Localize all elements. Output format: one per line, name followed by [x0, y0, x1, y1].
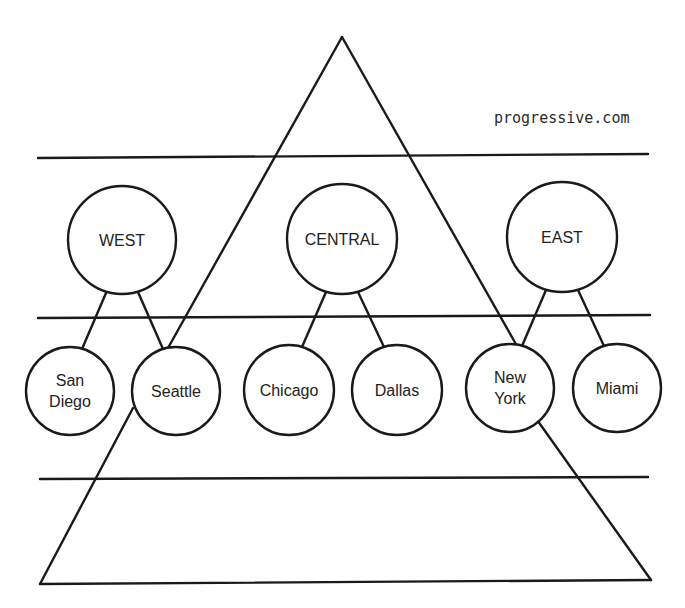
hierarchy-pyramid-diagram: WEST CENTRAL EAST San Diego Seattle Chic…	[0, 0, 685, 608]
pyramid-right-edge-lower	[530, 410, 651, 580]
pyramid-base	[40, 580, 651, 584]
node-central: CENTRAL	[287, 184, 397, 294]
node-label-chicago: Chicago	[260, 382, 319, 399]
connector-east-miami	[578, 290, 604, 346]
node-label-dallas: Dallas	[375, 382, 419, 399]
connector-central-dallas	[358, 292, 384, 347]
node-miami: Miami	[573, 344, 661, 432]
connector-east-newyork	[522, 290, 546, 346]
node-label-west: WEST	[99, 232, 145, 249]
connector-west-sandiego	[82, 293, 106, 349]
node-label-san-diego-line2: Diego	[49, 393, 91, 410]
node-circle-san-diego	[26, 347, 114, 435]
divider-line-bottom	[40, 477, 648, 479]
node-label-new-york-line1: New	[494, 369, 526, 386]
node-label-new-york-line2: York	[494, 390, 526, 407]
node-san-diego: San Diego	[26, 347, 114, 435]
node-label-seattle: Seattle	[151, 383, 201, 400]
node-seattle: Seattle	[132, 347, 220, 435]
pyramid-left-edge-lower	[40, 408, 133, 584]
node-new-york: New York	[466, 344, 554, 432]
connector-central-chicago	[302, 292, 326, 347]
connectors	[82, 290, 604, 349]
node-label-central: CENTRAL	[305, 231, 380, 248]
connector-west-seattle	[138, 292, 163, 349]
node-circle-new-york	[466, 344, 554, 432]
node-east: EAST	[507, 182, 617, 292]
watermark-text: progressive.com	[494, 109, 629, 127]
divider-line-middle	[38, 315, 650, 318]
node-dallas: Dallas	[352, 345, 442, 435]
node-west: WEST	[68, 186, 176, 294]
divider-line-top	[38, 154, 648, 158]
node-label-east: EAST	[541, 229, 583, 246]
node-label-san-diego-line1: San	[56, 372, 84, 389]
node-chicago: Chicago	[244, 345, 334, 435]
node-label-miami: Miami	[596, 380, 639, 397]
